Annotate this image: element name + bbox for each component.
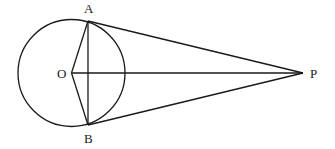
radius-ob: [72, 73, 89, 125]
point-label-p: P: [310, 66, 317, 81]
geometry-figure: A B O P: [0, 0, 335, 149]
point-label-a: A: [84, 1, 94, 16]
point-label-o: O: [57, 66, 66, 81]
tangent-pa: [88, 21, 303, 73]
tangent-pb: [88, 73, 303, 125]
point-label-b: B: [84, 131, 93, 146]
radius-oa: [72, 21, 89, 73]
